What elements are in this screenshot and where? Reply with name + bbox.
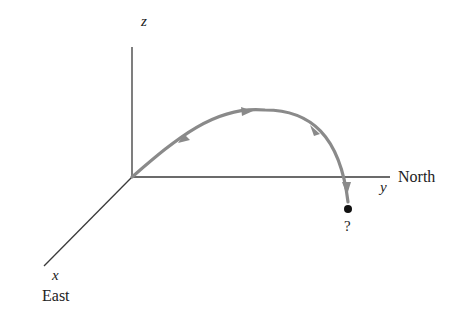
trajectory-path [132,110,348,202]
diagram-canvas [0,0,476,309]
north-label: North [398,169,435,185]
endpoint-question-label: ? [344,219,351,234]
arrow-icon-4 [342,182,351,195]
z-axis-label: z [141,14,147,29]
y-axis-label: y [380,180,387,195]
x-axis [44,177,132,266]
endpoint-dot [344,205,352,213]
east-label: East [42,288,70,304]
x-axis-label: x [52,268,59,283]
